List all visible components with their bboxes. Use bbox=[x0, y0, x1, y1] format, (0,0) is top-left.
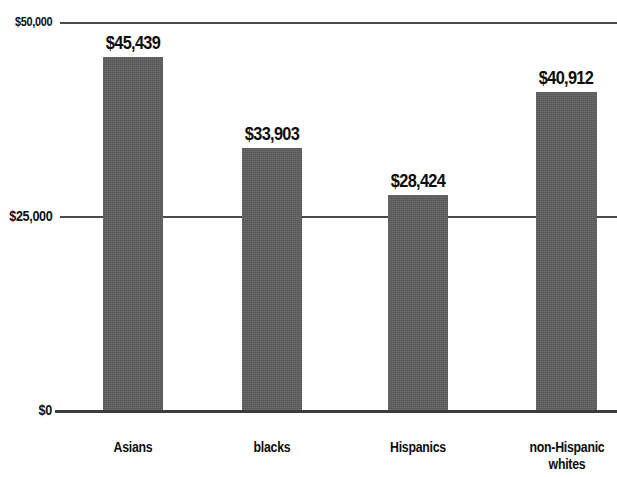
category-label-hispanics-line1: Hispanics bbox=[390, 439, 446, 455]
bar-asians[interactable] bbox=[103, 57, 163, 410]
bar-value-label-asians: $45,439 bbox=[81, 32, 184, 54]
axis-baseline-0 bbox=[55, 410, 617, 413]
category-label-asians-line1: Asians bbox=[114, 439, 153, 455]
bar-hispanics[interactable] bbox=[388, 195, 448, 410]
bar-value-label-blacks: $33,903 bbox=[220, 123, 323, 145]
ytick-50000: $50,000 bbox=[0, 14, 52, 30]
category-label-blacks-line1: blacks bbox=[254, 439, 291, 455]
ytick-50000-label: $50,000 bbox=[15, 14, 52, 29]
category-label-hispanics: Hispanics bbox=[365, 439, 471, 456]
bar-value-label-hispanics: $28,424 bbox=[366, 170, 469, 192]
bar-blacks[interactable] bbox=[242, 148, 302, 410]
category-label-asians: Asians bbox=[80, 439, 186, 456]
category-label-non-hispanic-whites-line1: non-Hispanic bbox=[530, 439, 605, 455]
ytick-0-label: $0 bbox=[39, 401, 52, 418]
bar-non-hispanic-whites[interactable] bbox=[536, 92, 597, 410]
ytick-25000-label: $25,000 bbox=[9, 207, 52, 224]
ytick-0: $0 bbox=[0, 401, 52, 417]
bar-chart: $50,000 $25,000 $0 $45,439 Asians $33,90… bbox=[0, 0, 617, 477]
ytick-25000: $25,000 bbox=[0, 207, 52, 223]
category-label-non-hispanic-whites: non-Hispanic whites bbox=[513, 439, 617, 473]
bar-value-label-non-hispanic-whites: $40,912 bbox=[514, 67, 617, 89]
category-label-non-hispanic-whites-line2: whites bbox=[549, 456, 586, 472]
category-label-blacks: blacks bbox=[219, 439, 325, 456]
gridline-50000 bbox=[60, 22, 617, 24]
